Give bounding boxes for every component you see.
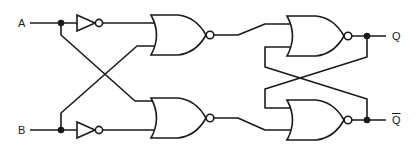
junction-qbar [364,117,371,124]
nor-gate-3 [287,16,344,56]
input-label-b: B [18,125,25,136]
junction-q [364,33,371,40]
nor-gate-2 [151,98,206,138]
output-label-qbar: Q [392,115,401,126]
inverter-a [77,15,95,31]
wire-a-cross [61,23,156,101]
junction-a [58,20,65,27]
nor-gate-1 [151,15,206,55]
inverter-a-bubble [95,19,102,26]
nor-gate-2-bubble [206,114,214,122]
circuit-diagram [0,0,420,150]
wire-nor2-to-nor4 [214,118,292,130]
input-label-a: A [18,18,25,29]
nor-gate-1-bubble [206,31,214,39]
output-label-q: Q [392,31,401,42]
inverter-b-bubble [95,126,102,133]
inverter-b [77,122,95,138]
nor-gate-4 [287,100,344,140]
wire-b-cross [61,46,156,130]
nor-gate-4-bubble [344,116,352,124]
wire-nor1-to-nor3 [214,24,292,35]
nor-gate-3-bubble [344,32,352,40]
junction-b [58,127,65,134]
